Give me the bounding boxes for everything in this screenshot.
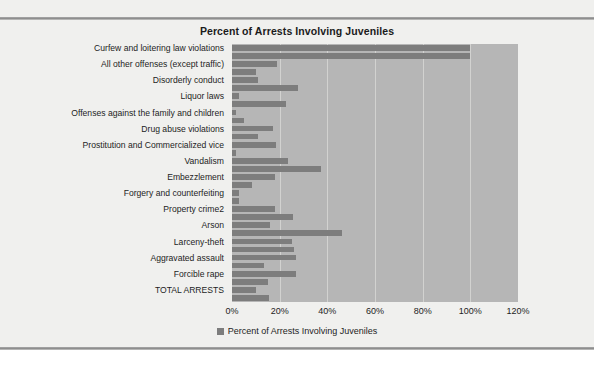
x-axis-tick-label: 0% [225, 306, 238, 316]
bar-row [232, 165, 518, 173]
chart-legend: Percent of Arrests Involving Juveniles [0, 326, 594, 336]
bar-row [232, 84, 518, 92]
bar-row [232, 189, 518, 197]
bar [232, 230, 342, 236]
bar [232, 77, 258, 83]
y-axis-label: Prostitution and Commercialized vice [83, 140, 224, 150]
x-axis-tick-label: 60% [366, 306, 384, 316]
y-axis-label: Larceny-theft [174, 237, 224, 247]
x-axis-tick-label: 120% [506, 306, 529, 316]
bar-row [232, 205, 518, 213]
chart-page: Percent of Arrests Involving Juveniles C… [0, 0, 594, 370]
bar-row [232, 173, 518, 181]
bar-row [232, 229, 518, 237]
y-axis-label: Disorderly conduct [153, 75, 224, 85]
y-axis-label: Offenses against the family and children [71, 108, 224, 118]
y-axis-category-labels: Curfew and loitering law violationsAll o… [0, 44, 228, 302]
bar [232, 214, 293, 220]
legend-swatch-icon [217, 328, 224, 335]
bar [232, 142, 276, 148]
page-footer-whitespace [0, 350, 594, 370]
bar [232, 93, 239, 99]
bar [232, 239, 292, 245]
bar-row [232, 100, 518, 108]
bar-row [232, 221, 518, 229]
bar [232, 85, 298, 91]
bar [232, 110, 236, 116]
bar [232, 263, 264, 269]
bar [232, 69, 256, 75]
bar-row [232, 294, 518, 302]
y-axis-label: Forcible rape [174, 269, 224, 279]
bar-row [232, 76, 518, 84]
bar-row [232, 68, 518, 76]
y-axis-label: Property crime2 [163, 204, 224, 214]
bar-row [232, 141, 518, 149]
x-axis-tick-labels: 0%20%40%60%80%100%120% [232, 304, 518, 320]
x-axis-tick-label: 20% [271, 306, 289, 316]
bar-row [232, 133, 518, 141]
bar-row [232, 149, 518, 157]
bar-row [232, 254, 518, 262]
x-axis-tick-label: 100% [459, 306, 482, 316]
y-axis-label: Embezzlement [167, 172, 224, 182]
bar [232, 158, 288, 164]
bar-row [232, 213, 518, 221]
legend-label: Percent of Arrests Involving Juveniles [228, 326, 378, 336]
bar [232, 150, 236, 156]
chart-area: Curfew and loitering law violationsAll o… [0, 44, 594, 306]
bar [232, 126, 273, 132]
y-axis-label: All other offenses (except traffic) [101, 59, 224, 69]
bar-row [232, 270, 518, 278]
bar-row [232, 246, 518, 254]
bar-row [232, 52, 518, 60]
bar-row [232, 181, 518, 189]
bar [232, 101, 286, 107]
y-axis-label: Drug abuse violations [141, 124, 224, 134]
bar [232, 222, 270, 228]
y-axis-label: Liquor laws [181, 91, 224, 101]
chart-title: Percent of Arrests Involving Juveniles [0, 25, 594, 37]
bar-row [232, 262, 518, 270]
bar [232, 134, 258, 140]
y-axis-label: Curfew and loitering law violations [94, 43, 224, 53]
bar [232, 45, 470, 51]
x-axis-tick-label: 40% [318, 306, 336, 316]
bar-row [232, 44, 518, 52]
y-axis-label: Forgery and counterfeiting [124, 188, 224, 198]
bar [232, 279, 268, 285]
bar-row [232, 117, 518, 125]
bar-row [232, 92, 518, 100]
bar-row [232, 60, 518, 68]
bar-rows [232, 44, 518, 302]
bar [232, 118, 244, 124]
y-axis-label: Aggravated assault [150, 253, 224, 263]
bar [232, 247, 294, 253]
bar [232, 287, 256, 293]
bar [232, 61, 277, 67]
bar [232, 53, 470, 59]
bar [232, 271, 296, 277]
y-axis-label: Arson [202, 220, 224, 230]
bar-row [232, 278, 518, 286]
bar [232, 255, 296, 261]
bar [232, 166, 321, 172]
plot-area [232, 44, 518, 302]
bar-row [232, 109, 518, 117]
top-divider-rule [0, 17, 594, 20]
bar [232, 174, 275, 180]
bar [232, 295, 269, 301]
x-axis-tick-label: 80% [414, 306, 432, 316]
bar [232, 198, 239, 204]
bar [232, 190, 239, 196]
y-axis-label: Vandalism [185, 156, 225, 166]
bar-row [232, 125, 518, 133]
bar-row [232, 157, 518, 165]
bar-row [232, 286, 518, 294]
bar-row [232, 197, 518, 205]
bar-row [232, 238, 518, 246]
y-axis-label: TOTAL ARRESTS [155, 285, 224, 295]
bar [232, 206, 275, 212]
bar [232, 182, 252, 188]
